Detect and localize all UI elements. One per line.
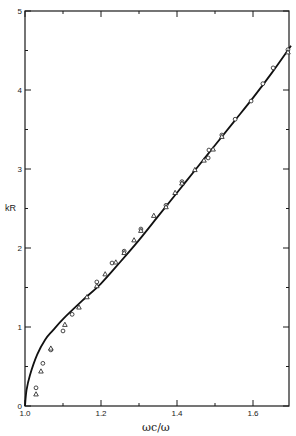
triangle-marker: [49, 346, 54, 350]
triangle-marker: [63, 322, 68, 326]
circle-marker: [61, 329, 65, 333]
triangle-marker: [132, 238, 137, 242]
triangle-marker: [114, 260, 119, 264]
plot-frame: [25, 11, 289, 406]
triangle-marker: [103, 272, 108, 276]
triangle-marker: [34, 392, 39, 396]
y-tick-label: 3: [18, 165, 23, 174]
y-tick-label: 5: [18, 7, 23, 16]
y-tick-label: 4: [18, 86, 23, 95]
circle-markers: [34, 48, 290, 390]
circle-marker: [271, 66, 275, 70]
tick-labels: 1.01.21.41.6012345: [18, 7, 260, 418]
x-tick-label: 1.4: [171, 409, 183, 418]
triangle-marker: [152, 213, 157, 217]
circle-marker: [41, 361, 45, 365]
x-tick-label: 1.2: [95, 409, 107, 418]
circle-marker: [70, 312, 74, 316]
y-axis-label: kR: [5, 203, 17, 213]
chart: 1.01.21.41.6012345 kR ωc/ω: [0, 0, 296, 436]
circle-marker: [34, 386, 38, 390]
circle-marker: [233, 117, 237, 121]
plot-border: [25, 11, 289, 406]
x-tick-label: 1.6: [247, 409, 259, 418]
y-tick-label: 1: [18, 323, 23, 332]
triangle-marker: [39, 369, 44, 373]
x-axis-label: ωc/ω: [142, 421, 170, 434]
circle-marker: [249, 99, 253, 103]
y-tick-label: 2: [18, 244, 23, 253]
circle-marker: [206, 156, 210, 160]
axis-ticks: [25, 11, 289, 406]
y-tick-label: 0: [18, 402, 23, 411]
circle-marker: [261, 82, 265, 86]
